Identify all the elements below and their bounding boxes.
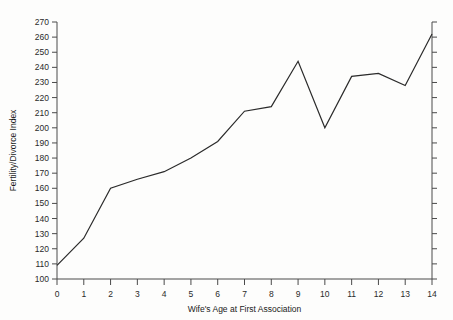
plot-area: 1001101201301401501601701801902002102202… — [8, 17, 437, 314]
x-tick-label: 6 — [215, 289, 220, 299]
y-tick-label: 160 — [35, 183, 49, 193]
line-chart: 1001101201301401501601701801902002102202… — [0, 0, 453, 320]
x-tick-label: 0 — [55, 289, 60, 299]
x-axis-title: Wife's Age at First Association — [188, 304, 302, 314]
y-tick-label: 250 — [35, 47, 49, 57]
y-tick-label: 100 — [35, 274, 49, 284]
y-tick-label: 260 — [35, 32, 49, 42]
y-tick-label: 190 — [35, 138, 49, 148]
x-tick-label: 8 — [269, 289, 274, 299]
y-tick-label: 270 — [35, 17, 49, 27]
x-tick-label: 3 — [135, 289, 140, 299]
y-tick-label: 240 — [35, 62, 49, 72]
x-tick-label: 12 — [374, 289, 384, 299]
y-tick-label: 120 — [35, 244, 49, 254]
x-tick-label: 14 — [427, 289, 437, 299]
y-tick-label: 230 — [35, 77, 49, 87]
data-series-line — [57, 34, 432, 265]
x-tick-label: 2 — [108, 289, 113, 299]
chart-container: 1001101201301401501601701801902002102202… — [0, 0, 453, 320]
x-tick-label: 4 — [162, 289, 167, 299]
x-tick-label: 11 — [347, 289, 356, 299]
y-tick-label: 220 — [35, 93, 49, 103]
y-tick-label: 140 — [35, 214, 49, 224]
y-tick-label: 180 — [35, 153, 49, 163]
y-tick-label: 210 — [35, 108, 49, 118]
x-tick-label: 9 — [296, 289, 301, 299]
x-tick-label: 7 — [242, 289, 247, 299]
y-tick-label: 150 — [35, 198, 49, 208]
y-tick-label: 110 — [35, 259, 49, 269]
x-tick-label: 5 — [189, 289, 194, 299]
y-tick-label: 170 — [35, 168, 49, 178]
y-tick-label: 130 — [35, 229, 49, 239]
x-tick-label: 1 — [81, 289, 86, 299]
y-axis-title: Fertility/Divorce Index — [8, 109, 18, 191]
y-tick-label: 200 — [35, 123, 49, 133]
x-tick-label: 13 — [400, 289, 410, 299]
x-tick-label: 10 — [320, 289, 330, 299]
